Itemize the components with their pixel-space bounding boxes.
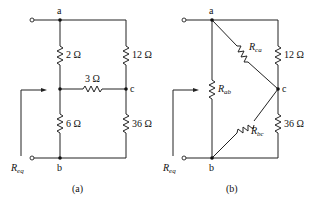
panel-a: a b c 2 Ω 12 Ω 3 Ω 6 Ω 36 Ω Req (a): [10, 5, 152, 195]
label-12-ohm-a: 12 Ω: [132, 49, 152, 60]
resistor-2-ohm: [57, 46, 63, 65]
node-label-b: b: [209, 162, 214, 173]
arrow-head-icon: [193, 88, 199, 92]
node-label-c: c: [282, 83, 287, 94]
req-label-b: Req: [162, 162, 176, 175]
circuit-diagram-svg: a b c 2 Ω 12 Ω 3 Ω 6 Ω 36 Ω Req (a): [0, 0, 316, 204]
wire: [212, 133, 237, 158]
label-6-ohm: 6 Ω: [66, 118, 81, 129]
wire: [254, 89, 278, 121]
wire: [248, 62, 278, 89]
circuit-figure: a b c 2 Ω 12 Ω 3 Ω 6 Ω 36 Ω Req (a): [0, 0, 316, 204]
wire: [212, 20, 237, 46]
node-dot-b: [58, 156, 62, 160]
resistor-6-ohm: [57, 114, 63, 133]
node-dot-a: [58, 18, 62, 22]
node-dot-mid: [58, 87, 62, 91]
label-rca: Rca: [248, 41, 262, 54]
node-dot-a: [210, 18, 214, 22]
panel-b: a b c 12 Ω 36 Ω Rab Rca Rbc Req (b): [162, 5, 304, 195]
label-rab: Rab: [217, 83, 232, 96]
node-label-b: b: [57, 162, 62, 173]
label-36-ohm-b: 36 Ω: [284, 118, 304, 129]
label-12-ohm-b: 12 Ω: [284, 49, 304, 60]
node-dot-c: [124, 87, 128, 91]
label-36-ohm-a: 36 Ω: [132, 118, 152, 129]
resistor-36-ohm-a: [123, 114, 129, 133]
label-2-ohm: 2 Ω: [66, 49, 81, 60]
node-label-c: c: [130, 83, 135, 94]
caption-b: (b): [226, 183, 238, 195]
node-label-a: a: [57, 5, 62, 16]
node-dot-c: [276, 87, 280, 91]
label-3-ohm: 3 Ω: [85, 73, 100, 84]
arrow-head-icon: [41, 88, 47, 92]
req-arrow-line-a: [21, 90, 44, 156]
resistor-36-ohm-b: [275, 114, 281, 133]
resistor-12-ohm-a: [123, 46, 129, 65]
terminal-a-open: [182, 18, 186, 22]
resistor-3-ohm: [83, 86, 102, 92]
terminal-b-open: [30, 156, 34, 160]
caption-a: (a): [72, 183, 83, 195]
resistor-12-ohm-b: [275, 46, 281, 65]
terminal-b-open: [182, 156, 186, 160]
resistor-rab: [209, 80, 215, 99]
label-rbc: Rbc: [250, 125, 265, 138]
req-arrow-line-b: [173, 90, 196, 156]
node-dot-b: [210, 156, 214, 160]
resistor-rca: [237, 46, 248, 62]
req-label-a: Req: [10, 162, 24, 175]
node-label-a: a: [209, 5, 214, 16]
terminal-a-open: [30, 18, 34, 22]
